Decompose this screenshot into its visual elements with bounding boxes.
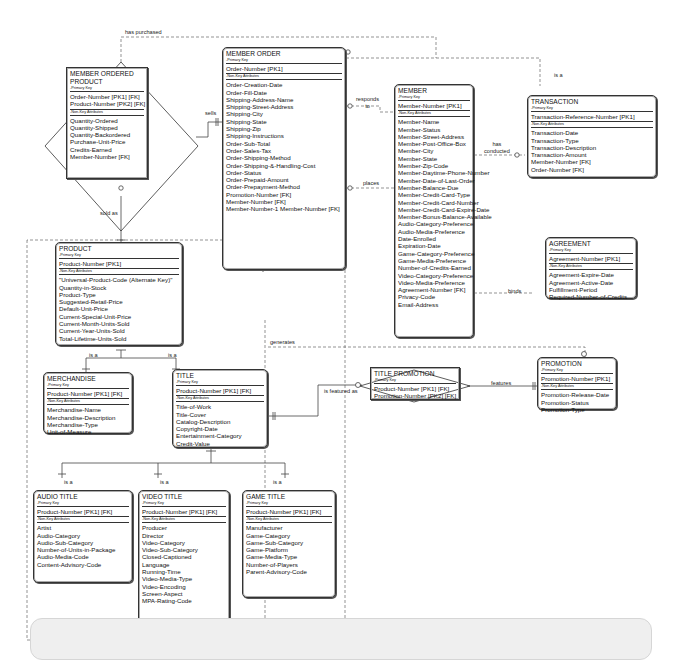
- pk-attributes: Order-Number [PK1]: [226, 65, 342, 74]
- attribute: Member-Name: [398, 118, 470, 125]
- pk-section-label: -Primary Key: [37, 501, 129, 507]
- attribute: Promotion-Type: [541, 406, 613, 413]
- entity-merchandise[interactable]: MERCHANDISE -Primary Key Product-Number …: [43, 372, 133, 434]
- attribute: Quantity-in-Stock: [59, 284, 179, 291]
- attribute: Shipping-Street-Address: [226, 103, 342, 110]
- attribute: Title-Cover: [176, 411, 264, 418]
- attribute: Member-Street-Address: [398, 133, 470, 140]
- attribute: Game-Media-Type: [246, 553, 332, 560]
- attribute: Order-Prepayment-Method: [226, 183, 342, 190]
- attribute: Transaction-Type: [531, 137, 653, 144]
- pk-section-label: -Primary Key: [176, 380, 264, 386]
- entity-title: TITLE PROMOTION: [374, 370, 456, 378]
- attribute: Member-Credit-Card-Number: [398, 199, 470, 206]
- attribute: Video-Media-Preference: [398, 279, 470, 286]
- attribute: Video-Category-Preference: [398, 272, 470, 279]
- pk-attribute: Product-Number [PK2] [FK]: [70, 100, 144, 107]
- entity-agreement[interactable]: AGREEMENT -Primary Key Agreement-Number …: [545, 237, 637, 299]
- attribute: Shipping-Address-Name: [226, 96, 342, 103]
- nk-section-label: -Non-Key Attributes: [70, 110, 144, 116]
- attribute: Agreement-Active-Date: [549, 279, 633, 286]
- pk-section-label: -Primary Key: [541, 368, 613, 374]
- entity-product[interactable]: PRODUCT -Primary Key Product-Number [PK1…: [55, 242, 183, 346]
- entity-title: MEMBER ORDERED PRODUCT: [70, 70, 144, 86]
- rel-label-is-a-title: is a: [168, 352, 177, 359]
- entity-game-title[interactable]: GAME TITLE -Primary Key Product-Number […: [242, 490, 336, 598]
- pk-section-label: -Primary Key: [374, 378, 456, 384]
- pk-attributes: Product-Number [PK1]: [59, 260, 179, 269]
- attribute: Game-Category-Preference: [398, 250, 470, 257]
- rel-label-features: features: [491, 380, 511, 387]
- attribute: Member-Number-1 Member-Number [FK]: [226, 205, 342, 212]
- nk-section-label: -Non-Key Attributes: [176, 396, 264, 402]
- attribute: Member-Credit-Card-Expire-Date: [398, 206, 470, 213]
- pk-attributes: Product-Number [PK1] [FK]: [246, 508, 332, 517]
- nk-section-label: -Non-Key Attributes: [398, 111, 470, 117]
- attribute: Member-Zip-Code: [398, 162, 470, 169]
- entity-video-title[interactable]: VIDEO TITLE -Primary Key Product-Number …: [138, 490, 230, 624]
- pk-attributes: Product-Number [PK1] [FK]: [176, 387, 264, 396]
- attribute: Member-Status: [398, 126, 470, 133]
- attribute: Shipping-State: [226, 118, 342, 125]
- attribute: Transaction-Amount: [531, 151, 653, 158]
- attribute: Shipping-Instructions: [226, 132, 342, 139]
- nk-section-label: -Non-Key Attributes: [59, 269, 179, 275]
- attribute: Audio-Media-Code: [37, 553, 129, 560]
- rel-label-responds-to: responds to: [356, 96, 379, 109]
- attribute: Language: [142, 561, 226, 568]
- attribute: Promotion-Release-Date: [541, 391, 613, 398]
- attribute: Screen-Aspect: [142, 590, 226, 597]
- rel-label-is-a-transaction: is a: [554, 72, 563, 79]
- entity-title: MERCHANDISE: [47, 375, 129, 383]
- attribute: Order-Fill-Date: [226, 89, 342, 96]
- attribute: Content-Advisory-Code: [37, 561, 129, 568]
- attribute: Parent-Advisory-Code: [246, 568, 332, 575]
- attribute: Purchase-Unit-Price: [70, 138, 144, 145]
- attribute: Audio-Media-Preference: [398, 228, 470, 235]
- pk-attribute: Transaction-Reference-Number [PK1]: [531, 113, 653, 120]
- attribute: Number-of-Players: [246, 561, 332, 568]
- pk-section-label: -Primary Key: [531, 106, 653, 112]
- attribute: Catalog-Description: [176, 418, 264, 425]
- entity-transaction[interactable]: TRANSACTION -Primary Key Transaction-Ref…: [527, 95, 657, 178]
- attribute: Member-Date-of-Last-Order: [398, 177, 470, 184]
- attribute: Audio-Sub-Category: [37, 539, 129, 546]
- rel-label-generates: generates: [270, 339, 295, 346]
- pk-attribute: Agreement-Number [PK1]: [549, 255, 633, 262]
- attribute: Artist: [37, 524, 129, 531]
- entity-promotion[interactable]: PROMOTION -Primary Key Promotion-Number …: [537, 357, 617, 410]
- entity-member-order[interactable]: MEMBER ORDER -Primary Key Order-Number […: [222, 47, 346, 270]
- nk-section-label: -Non-Key Attributes: [37, 517, 129, 523]
- attribute: Current-Month-Units-Sold: [59, 320, 179, 327]
- attribute: Number-of-Credits-Earned: [398, 264, 470, 271]
- attribute: Order-Status: [226, 169, 342, 176]
- pk-section-label: -Primary Key: [549, 248, 633, 254]
- attribute: Default-Unit-Price: [59, 305, 179, 312]
- entity-member[interactable]: MEMBER -Primary Key Member-Number [PK1] …: [394, 84, 474, 338]
- entity-title[interactable]: TITLE -Primary Key Product-Number [PK1] …: [172, 369, 268, 448]
- attribute: Member-Number [FK]: [226, 198, 342, 205]
- pk-attributes: Product-Number [PK1] [FK]: [47, 390, 129, 399]
- attribute: Member-Number [FK]: [70, 153, 144, 160]
- pk-attribute: Product-Number [PK1] [FK]: [37, 508, 129, 515]
- pk-attribute: Order-Number [PK1] [FK]: [70, 93, 144, 100]
- attribute: Member-Post-Office-Box: [398, 140, 470, 147]
- attribute: Total-Lifetime-Units-Sold: [59, 335, 179, 342]
- attribute: Entertainment-Category: [176, 432, 264, 439]
- attribute: Game-Platform: [246, 546, 332, 553]
- attribute: "Universal-Product-Code (Alternate Key)": [59, 276, 179, 283]
- entity-member-ordered-product[interactable]: MEMBER ORDERED PRODUCT -Primary Key Orde…: [66, 67, 148, 179]
- attribute: Producer: [142, 524, 226, 531]
- pk-attribute: Product-Number [PK1]: [59, 260, 179, 267]
- pk-attribute: Product-Number [PK1] [FK]: [176, 387, 264, 394]
- pk-attribute: Product-Number [PK1] [FK]: [47, 390, 129, 397]
- attribute: Member-State: [398, 155, 470, 162]
- entity-audio-title[interactable]: AUDIO TITLE -Primary Key Product-Number …: [33, 490, 133, 583]
- entity-title: MEMBER ORDER: [226, 50, 342, 58]
- attribute: Order-Shipping-Method: [226, 154, 342, 161]
- entity-title-promotion[interactable]: TITLE PROMOTION -Primary Key Product-Num…: [370, 367, 460, 400]
- rel-label-is-a-video: is a: [160, 479, 169, 486]
- attribute: Video-Sub-Category: [142, 546, 226, 553]
- attribute: Product-Type: [59, 291, 179, 298]
- attribute: Member-Balance-Due: [398, 184, 470, 191]
